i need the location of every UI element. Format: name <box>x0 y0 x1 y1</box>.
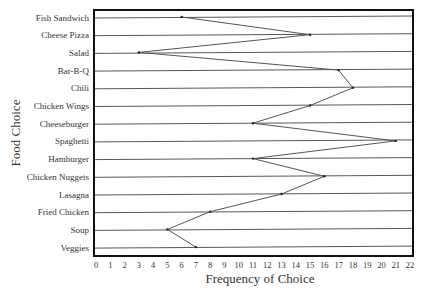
data-point <box>323 175 325 177</box>
line-chart: Fish SandwichCheese PizzaSaladBar-B-QChi… <box>0 0 435 289</box>
gridline <box>94 105 413 107</box>
x-tick-label: 6 <box>180 260 184 270</box>
data-point <box>309 104 311 106</box>
category-label: Fried Chicken <box>38 207 90 217</box>
category-label: Fish Sandwich <box>36 13 90 23</box>
x-axis-title: Frequency of Choice <box>205 271 314 286</box>
chart-canvas: Fish SandwichCheese PizzaSaladBar-B-QChi… <box>0 0 435 289</box>
category-label: Spaghetti <box>55 136 89 146</box>
data-series-line <box>138 16 397 249</box>
category-label: Soup <box>70 225 89 235</box>
x-tick-label: 3 <box>137 260 141 270</box>
category-label: Salad <box>69 48 89 58</box>
plot-frame <box>94 10 413 256</box>
x-tick-label: 21 <box>391 260 400 270</box>
x-tick-label: 16 <box>320 260 329 270</box>
x-tick-label: 19 <box>363 260 372 270</box>
data-point <box>309 34 311 36</box>
category-label: Hamburger <box>48 154 89 164</box>
gridline <box>94 140 413 142</box>
gridline <box>94 69 413 71</box>
x-tick-label: 9 <box>222 260 226 270</box>
data-point <box>280 193 282 195</box>
gridline <box>94 246 413 248</box>
x-tick-label: 12 <box>263 260 272 270</box>
x-tick-label: 11 <box>249 260 257 270</box>
x-tick-label: 8 <box>208 260 212 270</box>
data-point <box>352 87 354 89</box>
y-axis-title: Food Choice <box>8 99 23 166</box>
gridline <box>94 228 413 230</box>
x-tick-label: 4 <box>151 260 156 270</box>
x-axis-tick-labels: 012345678910111213141516171819202122 <box>94 260 414 270</box>
gridline <box>94 175 413 177</box>
x-tick-label: 20 <box>377 260 386 270</box>
x-tick-label: 2 <box>122 260 126 270</box>
y-axis-category-labels: Fish SandwichCheese PizzaSaladBar-B-QChi… <box>27 13 90 253</box>
x-tick-label: 15 <box>306 260 315 270</box>
data-point <box>252 122 254 124</box>
x-tick-label: 14 <box>292 260 301 270</box>
data-point <box>337 69 339 71</box>
category-gridlines <box>94 16 413 248</box>
category-label: Chicken Nuggets <box>27 172 90 182</box>
data-point <box>166 228 168 230</box>
data-point <box>209 211 211 213</box>
category-label: Chicken Wings <box>34 101 90 111</box>
gridline <box>94 211 413 213</box>
category-label: Veggies <box>61 243 90 253</box>
x-tick-label: 0 <box>94 260 98 270</box>
x-tick-label: 5 <box>165 260 169 270</box>
x-tick-label: 10 <box>234 260 243 270</box>
data-point <box>180 16 182 18</box>
x-tick-label: 13 <box>277 260 286 270</box>
x-tick-label: 22 <box>406 260 415 270</box>
data-point <box>138 51 140 53</box>
category-label: Chili <box>71 83 90 93</box>
x-tick-label: 7 <box>194 260 198 270</box>
gridline <box>94 193 413 195</box>
category-label: Cheeseburger <box>40 119 89 129</box>
x-tick-label: 17 <box>334 260 343 270</box>
data-point <box>195 246 197 248</box>
data-point <box>252 157 254 159</box>
data-point <box>395 140 397 142</box>
x-tick-label: 1 <box>108 260 112 270</box>
gridline <box>94 87 413 89</box>
gridline <box>94 16 413 18</box>
x-tick-label: 18 <box>349 260 358 270</box>
category-label: Bar-B-Q <box>58 66 90 76</box>
category-label: Lasagna <box>59 190 89 200</box>
gridline <box>94 34 413 36</box>
category-label: Cheese Pizza <box>41 30 89 40</box>
